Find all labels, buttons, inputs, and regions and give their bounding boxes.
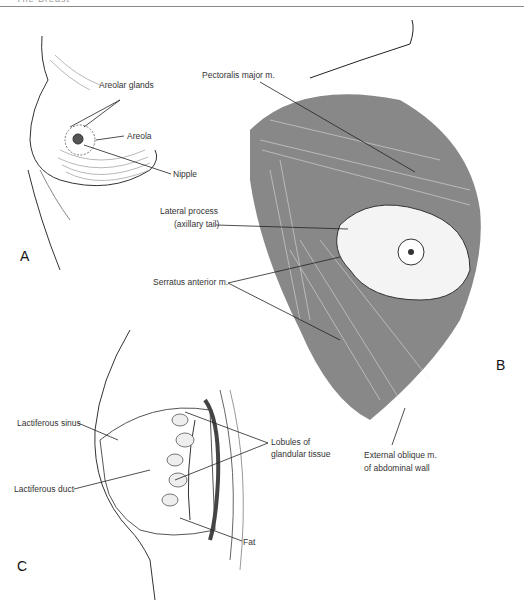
label-glandular-tissue: glandular tissue [271, 449, 331, 460]
label-nipple: Nipple [173, 169, 197, 180]
panel-letter-b: B [496, 357, 505, 373]
label-areolar-glands: Areolar glands [99, 80, 154, 91]
label-lactiferous-sinus: Lactiferous sinus [17, 418, 81, 429]
panel-letter-a: A [20, 248, 29, 264]
panel-letter-c: C [17, 558, 27, 574]
label-areola: Areola [127, 131, 152, 142]
panel-b-drawing [250, 20, 481, 420]
label-lateral-process: Lateral process [160, 206, 218, 217]
panel-c-drawing [95, 330, 244, 600]
label-external-oblique: External oblique m. [364, 450, 437, 461]
panel-a-drawing [28, 36, 157, 270]
label-lactiferous-duct: Lactiferous duct [14, 484, 74, 495]
anatomy-illustration [0, 0, 524, 607]
panel-a-leaders [70, 100, 171, 174]
label-serratus-anterior: Serratus anterior m. [153, 277, 228, 288]
label-pectoralis-major: Pectoralis major m. [202, 70, 275, 81]
label-axillary-tail: (axillary tail) [174, 219, 219, 230]
label-fat: Fat [243, 537, 255, 548]
label-abdominal-wall: of abdominal wall [364, 463, 430, 474]
label-lobules: Lobules of [271, 437, 310, 448]
